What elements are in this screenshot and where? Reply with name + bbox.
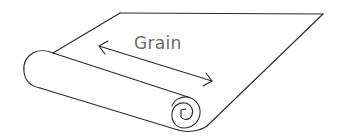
grain-label: Grain: [134, 33, 182, 53]
roll-spiral: [172, 97, 200, 128]
grain-diagram: Grain: [0, 0, 345, 139]
sheet-outline: [53, 13, 323, 126]
roll-body: [24, 51, 207, 132]
